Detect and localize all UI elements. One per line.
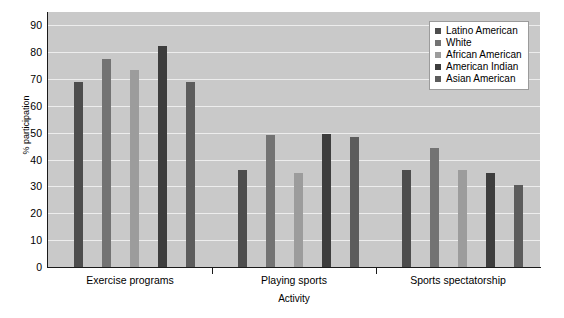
legend-swatch-icon [435,64,441,70]
y-axis-tick-labels: 0102030405060708090 [8,0,42,318]
bar [74,82,83,267]
x-axis-line [47,267,541,268]
y-tick-label: 0 [14,262,42,273]
bar [158,46,167,267]
y-tick-label: 40 [14,155,42,166]
chart-legend: Latino AmericanWhiteAfrican AmericanAmer… [429,21,529,90]
legend-swatch-icon [435,40,441,46]
x-axis-title: Activity [48,293,540,304]
y-tick-label: 80 [14,47,42,58]
y-tick-label: 20 [14,208,42,219]
bar [430,148,439,267]
y-tick-label: 50 [14,128,42,139]
legend-item: Asian American [435,73,522,85]
legend-label: Asian American [446,73,515,85]
legend-label: African American [446,49,522,61]
bar-chart: % participation 0102030405060708090 Exer… [0,0,564,318]
bar [514,185,523,267]
legend-item: American Indian [435,61,522,73]
bar [186,82,195,267]
category-label: Playing sports [212,274,376,286]
legend-label: Latino American [446,25,518,37]
legend-item: African American [435,49,522,61]
y-tick-label: 90 [14,20,42,31]
category-label: Exercise programs [48,274,212,286]
bar [350,137,359,267]
legend-label: White [446,37,472,49]
legend-swatch-icon [435,28,441,34]
y-tick-label: 60 [14,101,42,112]
gridline [48,160,540,161]
gridline [48,106,540,107]
bar [130,70,139,267]
bar [402,170,411,267]
bar [486,173,495,267]
bar [102,59,111,267]
bar [238,170,247,267]
y-axis-line [47,12,48,268]
y-tick-label: 10 [14,235,42,246]
bar [322,134,331,267]
legend-item: White [435,37,522,49]
bar [458,170,467,267]
legend-swatch-icon [435,76,441,82]
gridline [48,133,540,134]
category-label: Sports spectatorship [376,274,540,286]
y-tick-label: 30 [14,181,42,192]
legend-label: American Indian [446,61,518,73]
bar [294,173,303,267]
legend-swatch-icon [435,52,441,58]
bar [266,135,275,267]
legend-item: Latino American [435,25,522,37]
y-tick-label: 70 [14,74,42,85]
